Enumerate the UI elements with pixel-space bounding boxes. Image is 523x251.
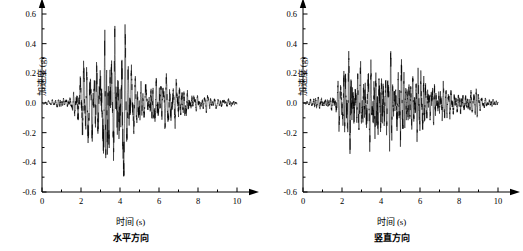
- y-tick-label: -0.4: [284, 157, 298, 167]
- panel-vertical: 0246810-0.6-0.4-0.20.00.20.40.6 加速度 (g) …: [261, 0, 522, 251]
- x-tick-label: 4: [118, 196, 123, 206]
- x-tick-label: 2: [79, 196, 83, 206]
- y-axis-arrow-icon: [39, 0, 45, 8]
- x-axis-label-left: 时间 (s): [0, 215, 261, 228]
- y-tick-label: -0.2: [284, 128, 297, 138]
- panel-horizontal: 0246810-0.6-0.4-0.20.00.20.40.6 加速度 (g) …: [0, 0, 261, 251]
- x-ticks: 0246810: [40, 188, 241, 207]
- x-tick-label: 8: [196, 196, 200, 206]
- waveform-line: [42, 24, 237, 176]
- y-tick-label: 0.6: [286, 9, 297, 19]
- x-tick-label: 10: [233, 196, 242, 206]
- x-tick-label: 0: [40, 196, 44, 206]
- y-tick-label: -0.6: [284, 187, 297, 197]
- y-axis-arrow-icon: [300, 0, 306, 8]
- y-axis-label-right: 加速度 (g): [296, 32, 309, 122]
- y-tick-label: -0.6: [23, 187, 36, 197]
- x-axis-arrow-icon: [249, 189, 259, 195]
- y-tick-label: -0.4: [23, 157, 37, 167]
- y-tick-label: 0.6: [25, 9, 36, 19]
- x-tick-label: 2: [340, 196, 344, 206]
- x-tick-label: 10: [494, 196, 503, 206]
- acceleration-time-history-figure: 0246810-0.6-0.4-0.20.00.20.40.6 加速度 (g) …: [0, 0, 523, 251]
- waveform-line: [303, 51, 498, 154]
- x-tick-label: 6: [157, 196, 161, 206]
- x-ticks: 0246810: [301, 188, 502, 207]
- x-tick-label: 8: [457, 196, 461, 206]
- x-axis-label-right: 时间 (s): [261, 215, 522, 228]
- x-axis-arrow-icon: [510, 189, 520, 195]
- x-tick-label: 6: [418, 196, 422, 206]
- x-tick-label: 4: [379, 196, 384, 206]
- panel-caption-left: 水平方向: [0, 231, 261, 244]
- y-tick-label: -0.2: [23, 128, 36, 138]
- x-tick-label: 0: [301, 196, 305, 206]
- panel-caption-right: 竖直方向: [261, 231, 522, 244]
- y-axis-label-left: 加速度 (g): [35, 32, 48, 122]
